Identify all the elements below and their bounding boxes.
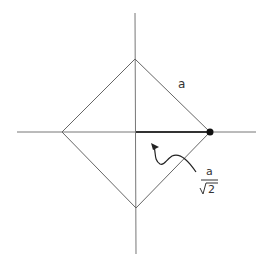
vertex-dot xyxy=(207,129,214,136)
diagram-canvas: a a 2 xyxy=(0,0,269,267)
arrowhead-icon xyxy=(151,143,159,150)
side-label: a xyxy=(178,78,185,90)
fraction-denominator: 2 xyxy=(208,184,215,195)
y-axis xyxy=(135,13,136,254)
diagram-svg xyxy=(0,0,269,267)
fraction-numerator: a xyxy=(206,166,213,177)
